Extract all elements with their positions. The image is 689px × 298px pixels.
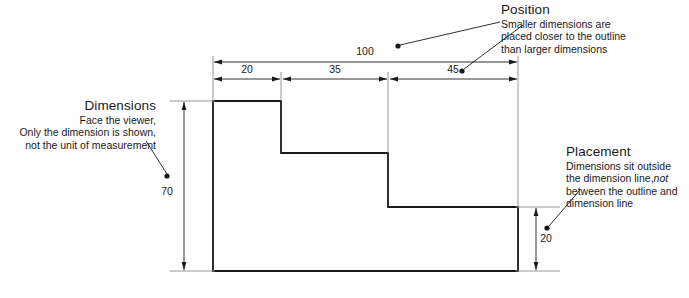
annotation-placement: Placement Dimensions sit outside the dim… [566,144,689,209]
annotation-dimensions-heading: Dimensions [0,98,156,114]
annotation-placement-line-1: Dimensions sit outside [566,160,689,172]
annotation-placement-heading: Placement [566,144,689,160]
dim-label-70: 70 [139,185,195,197]
leader-dot-position-100 [395,43,400,48]
leader-dot-placement [544,225,549,230]
annotation-placement-line-3: between the outline and [566,185,689,197]
outline-path [213,101,518,271]
annotation-dimensions-line-3: not the unit of measurement [0,139,156,151]
annotation-dimensions: Dimensions Face the viewer, Only the dim… [0,98,156,151]
dim-label-45: 45 [425,63,481,75]
leader-dot-dimensions [164,173,169,178]
diagram-canvas: 20 35 45 100 70 20 Dimensions Face the v… [0,0,689,298]
annotation-position-line-1: Smaller dimensions are [501,18,689,30]
annotation-dimensions-line-1: Face the viewer, [0,114,156,126]
annotation-position-line-2: placed closer to the outline [501,30,689,42]
dim-label-step-20: 20 [518,232,574,244]
annotation-dimensions-line-2: Only the dimension is shown, [0,126,156,138]
annotation-placement-emphasis: not [654,172,669,184]
annotation-placement-line-4: dimension line [566,197,689,209]
annotation-placement-line-2-text: the dimension line, [566,172,654,184]
dim-label-35: 35 [307,63,363,75]
annotation-position-line-3: than larger dimensions [501,43,689,55]
leader-position-100 [400,22,500,45]
part-outline [213,101,518,271]
dim-label-100: 100 [337,45,393,57]
annotation-placement-line-2: the dimension line,not [566,172,689,184]
annotation-position-heading: Position [501,2,689,18]
annotation-position: Position Smaller dimensions are placed c… [501,2,689,55]
dim-label-20: 20 [219,63,275,75]
